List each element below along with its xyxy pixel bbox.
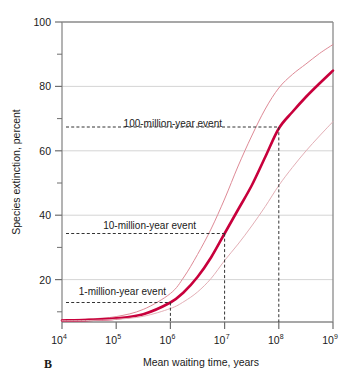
extinction-waiting-time-chart: 100 80 60 40 20 Species extinction, perc… <box>0 0 355 383</box>
ytick-label-20: 20 <box>39 274 51 286</box>
xtick-base-1e7: 10 <box>214 334 226 346</box>
xtick-exp-1e9: 9 <box>334 333 338 340</box>
xtick-exp-1e4: 4 <box>63 333 67 340</box>
figure-panel-b: 100 80 60 40 20 Species extinction, perc… <box>0 0 355 383</box>
annotation-label-1my: 1-million-year event <box>79 286 166 297</box>
xtick-exp-1e5: 5 <box>117 333 121 340</box>
annotation-label-100my: 100-million-year event <box>124 118 223 129</box>
x-axis-title: Mean waiting time, years <box>143 356 259 368</box>
xtick-base-1e4: 10 <box>51 334 63 346</box>
xtick-base-1e9: 10 <box>322 334 334 346</box>
ytick-label-40: 40 <box>39 209 51 221</box>
xtick-exp-1e8: 8 <box>280 333 284 340</box>
ytick-label-80: 80 <box>39 80 51 92</box>
xtick-exp-1e7: 7 <box>226 333 230 340</box>
ytick-label-100: 100 <box>33 16 51 28</box>
annotation-label-10my: 10-million-year event <box>103 220 196 231</box>
xtick-base-1e5: 10 <box>105 334 117 346</box>
xtick-exp-1e6: 6 <box>171 333 175 340</box>
ytick-label-60: 60 <box>39 145 51 157</box>
xtick-base-1e6: 10 <box>160 334 172 346</box>
panel-label: B <box>44 357 52 371</box>
chart-background <box>0 0 355 383</box>
y-axis-title: Species extinction, percent <box>10 109 22 235</box>
xtick-base-1e8: 10 <box>268 334 280 346</box>
